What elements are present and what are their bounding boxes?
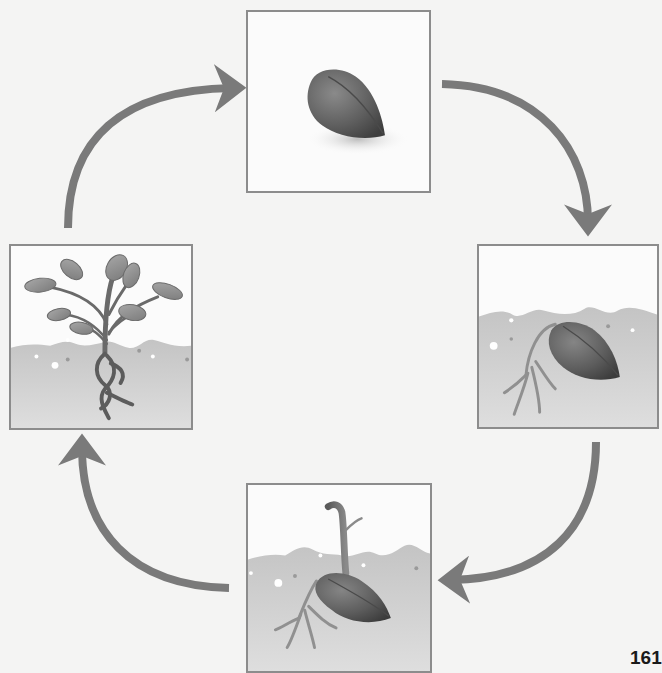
stage-panel-germinating-seed: Germinating seed with roots [477, 244, 659, 429]
seed-icon [248, 12, 429, 191]
stage-panel-seed: Seed [246, 10, 431, 193]
arrow-germinating-to-seedling [452, 442, 596, 580]
stage-panel-seedling: Seedling sprouting [246, 483, 432, 673]
page-number: 161 [630, 647, 662, 669]
arrow-seed-to-germinating [442, 84, 588, 222]
germinating-seed-icon [479, 246, 657, 427]
arrow-plant-to-seed [68, 88, 232, 228]
arrow-seedling-to-plant [82, 448, 229, 588]
stage-panel-plant: Young plant with leaves and roots [9, 244, 193, 430]
plant-icon [11, 246, 191, 428]
seedling-icon [248, 485, 430, 671]
